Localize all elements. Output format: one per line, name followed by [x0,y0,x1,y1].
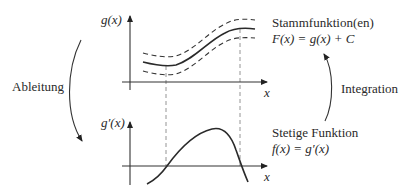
antiderivative-block: Stammfunktion(en) F(x) = g(x) + C [271,15,374,46]
bottom-plot: g′(x) x [101,115,270,185]
top-x-axis-label: x [263,85,270,100]
bottom-y-axis-label: g′(x) [101,115,125,130]
continuous-formula: f(x) = g′(x) [272,141,329,156]
integration-arrow [324,54,332,121]
integration-arrow-group: Integration [324,54,399,121]
integration-label: Integration [341,81,399,96]
antiderivative-title: Stammfunktion(en) [272,15,374,30]
antiderivative-formula: F(x) = g(x) + C [271,31,355,46]
continuous-title: Stetige Funktion [272,125,359,140]
continuous-function-block: Stetige Funktion f(x) = g′(x) [272,125,359,156]
derivative-label: Ableitung [12,79,64,94]
guide-lines [166,29,240,166]
top-plot: g(x) x [101,12,270,100]
derivative-arrow [70,40,83,141]
top-y-axis-label: g(x) [101,12,122,27]
g-prime-curve [147,129,248,184]
bottom-x-axis-label: x [263,169,270,184]
calculus-diagram: g(x) x g′(x) x Ableitung Integration Sta… [0,0,408,193]
derivative-arrow-group: Ableitung [12,40,82,141]
